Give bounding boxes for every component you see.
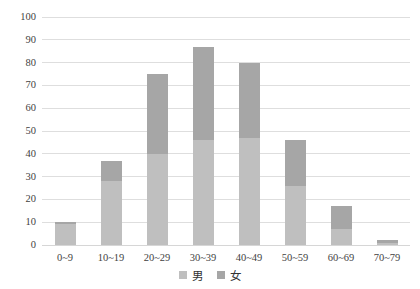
- y-tick-label-100: 100: [2, 11, 36, 23]
- legend-item-男: 男: [179, 267, 203, 283]
- bar-segment-男-40~49: [239, 138, 260, 245]
- bar-segment-男-50~59: [285, 186, 306, 245]
- legend-swatch-icon-女: [217, 271, 225, 279]
- bar-group-20~29: [134, 74, 180, 245]
- x-category-label-40~49: 40~49: [226, 252, 272, 263]
- bar-group-0~9: [42, 222, 88, 245]
- bar-segment-男-0~9: [55, 224, 76, 245]
- bar-segment-女-60~69: [331, 206, 352, 229]
- y-tick-label-90: 90: [2, 34, 36, 46]
- y-tick-label-70: 70: [2, 79, 36, 91]
- bar-segment-女-30~39: [193, 47, 214, 140]
- bar-segment-男-70~79: [377, 243, 398, 245]
- legend-label-男: 男: [192, 267, 203, 283]
- gridline-100: [42, 17, 410, 18]
- x-category-label-20~29: 20~29: [134, 252, 180, 263]
- gridline-90: [42, 39, 410, 40]
- x-category-label-50~59: 50~59: [272, 252, 318, 263]
- bar-segment-男-20~29: [147, 154, 168, 245]
- y-tick-label-60: 60: [2, 102, 36, 114]
- bar-segment-男-60~69: [331, 229, 352, 245]
- plot-area: [42, 17, 410, 245]
- y-tick-label-10: 10: [2, 216, 36, 228]
- x-category-label-0~9: 0~9: [42, 252, 88, 263]
- legend-label-女: 女: [230, 267, 241, 283]
- x-category-label-60~69: 60~69: [318, 252, 364, 263]
- bar-group-60~69: [318, 206, 364, 245]
- stacked-bar-chart: 0102030405060708090100 0~910~1920~2930~3…: [0, 0, 420, 289]
- x-category-label-30~39: 30~39: [180, 252, 226, 263]
- bar-segment-女-10~19: [101, 161, 122, 182]
- bar-segment-女-20~29: [147, 74, 168, 154]
- legend-swatch-icon-男: [179, 271, 187, 279]
- y-tick-label-80: 80: [2, 57, 36, 69]
- x-category-label-10~19: 10~19: [88, 252, 134, 263]
- bar-group-40~49: [226, 63, 272, 245]
- bar-group-50~59: [272, 140, 318, 245]
- y-tick-label-50: 50: [2, 125, 36, 137]
- y-tick-label-40: 40: [2, 148, 36, 160]
- bar-segment-女-40~49: [239, 63, 260, 138]
- bar-group-10~19: [88, 161, 134, 245]
- y-tick-label-20: 20: [2, 193, 36, 205]
- bar-segment-男-30~39: [193, 140, 214, 245]
- legend: 男女: [0, 267, 420, 283]
- y-tick-label-30: 30: [2, 171, 36, 183]
- bar-segment-男-10~19: [101, 181, 122, 245]
- bar-group-70~79: [364, 240, 410, 245]
- legend-item-女: 女: [217, 267, 241, 283]
- x-category-label-70~79: 70~79: [364, 252, 410, 263]
- bar-group-30~39: [180, 47, 226, 245]
- bar-segment-女-50~59: [285, 140, 306, 186]
- y-tick-label-0: 0: [2, 239, 36, 251]
